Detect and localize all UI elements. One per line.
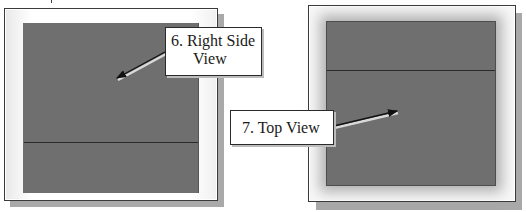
top-view-edge-line [327, 70, 495, 71]
top-view-callout-label: 7. Top View [242, 119, 333, 137]
right-side-view-callout: 6. Right Side View [165, 27, 262, 76]
right-side-view-callout-line2: View [171, 50, 261, 68]
right-side-view-edge-line [24, 142, 198, 143]
cropped-mark [51, 0, 52, 3]
top-view-callout: 7. Top View [230, 110, 334, 145]
right-side-view-callout-line1: 6. Right Side [171, 32, 261, 50]
top-view-face [326, 21, 496, 186]
